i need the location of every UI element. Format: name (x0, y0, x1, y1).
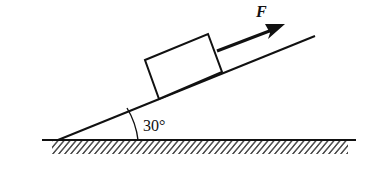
force-arrow-shaft (217, 30, 272, 51)
incline-diagram: F 30° (0, 0, 380, 169)
angle-arc (127, 108, 138, 140)
block (145, 34, 222, 99)
ground-hatching (52, 141, 348, 154)
angle-label: 30° (143, 117, 165, 134)
force-label: F (255, 3, 267, 20)
